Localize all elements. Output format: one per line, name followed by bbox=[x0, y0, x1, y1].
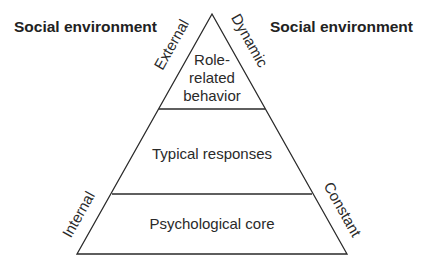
level-typical-responses: Typical responses bbox=[152, 145, 272, 162]
heading-left: Social environment bbox=[14, 18, 157, 35]
level-1-line-2: related bbox=[189, 69, 235, 86]
level-psychological-core: Psychological core bbox=[149, 215, 274, 232]
level-role-related-behavior: Role- related behavior bbox=[183, 51, 241, 104]
side-label-internal: Internal bbox=[59, 188, 98, 240]
side-label-dynamic: Dynamic bbox=[228, 11, 272, 71]
pyramid-diagram: Social environment Social environment Ro… bbox=[0, 0, 428, 272]
side-label-constant: Constant bbox=[321, 179, 366, 240]
level-1-line-1: Role- bbox=[194, 51, 230, 68]
heading-right: Social environment bbox=[270, 18, 413, 35]
level-1-line-3: behavior bbox=[183, 87, 241, 104]
